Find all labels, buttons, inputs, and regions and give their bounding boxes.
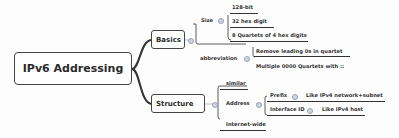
underline [220,130,266,131]
collapse-prefix-icon[interactable] [292,94,298,100]
note-prefix[interactable]: Like IPv4 network+subnet [306,92,383,98]
underline [267,101,385,102]
node-address[interactable]: Address [226,100,250,106]
node-basics[interactable]: Basics [151,30,185,49]
underline [230,27,274,28]
node-multiple-quartets[interactable]: Multiple 0000 Quartets with :: [256,63,344,69]
underline [230,41,308,42]
node-interface-id[interactable]: Interface ID [270,106,305,112]
node-32-hex-digit[interactable]: 32 hex digit [232,18,267,24]
node-128-bit[interactable]: 128-bit [232,4,253,10]
node-similar[interactable]: similar [226,80,246,86]
underline [220,89,248,90]
collapse-structure-icon[interactable] [212,102,218,108]
basics-label: Basics [156,36,181,44]
root-node[interactable]: IPv6 Addressing [14,52,132,85]
root-label: IPv6 Addressing [23,62,124,75]
collapse-interface-id-icon[interactable] [307,108,313,114]
node-abbreviation[interactable]: abbreviation [200,55,237,61]
collapse-size-icon[interactable] [218,18,224,24]
node-prefix[interactable]: Prefix [270,92,287,98]
node-internet-wide[interactable]: Internet-wide [226,121,266,127]
node-8-quartets[interactable]: 8 Quartets of 4 hex digits [232,32,307,38]
structure-label: Structure [156,100,194,108]
node-remove-leading-zeros[interactable]: Remove leading 0s in quartet [256,48,342,54]
underline [267,115,365,116]
node-structure[interactable]: Structure [151,94,205,113]
underline [254,56,350,57]
collapse-basics-icon[interactable] [188,38,194,44]
underline [230,13,258,14]
note-interface-id[interactable]: Like IPv4 host [322,106,363,112]
collapse-address-icon[interactable] [256,102,262,108]
collapse-abbreviation-icon[interactable] [244,56,250,62]
node-size[interactable]: Size [201,17,213,23]
